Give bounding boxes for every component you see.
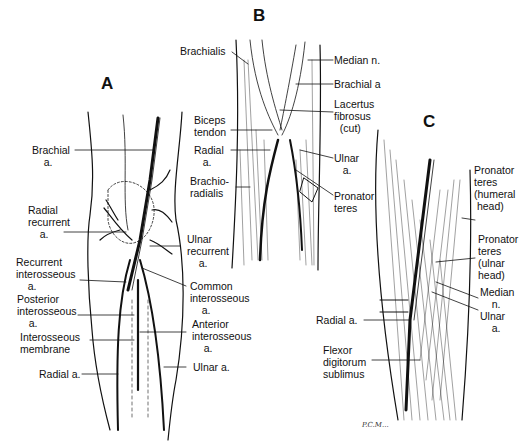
label-radial-a-b: Radial a. bbox=[194, 144, 224, 168]
label-brachialis: Brachialis bbox=[180, 45, 226, 57]
label-radial-a-c: Radial a. bbox=[316, 314, 357, 326]
label-radial-recurrent: Radial recurrent a. bbox=[28, 204, 70, 240]
panel-letter-a: A bbox=[101, 74, 113, 94]
panel-letter-b: B bbox=[253, 6, 265, 26]
label-brachial-a-b: Brachial a bbox=[334, 78, 381, 90]
label-median-n-c: Median n. bbox=[480, 286, 514, 310]
label-median-n-b: Median n. bbox=[334, 54, 380, 66]
label-lacertus-fibrosus: Lacertus fibrosus (cut) bbox=[334, 98, 374, 134]
label-posterior-interosseous: Posterior interosseous a. bbox=[17, 293, 77, 329]
label-biceps-tendon: Biceps tendon bbox=[194, 114, 226, 138]
label-radial-a: Radial a. bbox=[39, 368, 80, 380]
panel-c-drawing bbox=[364, 130, 478, 420]
label-ulnar-a-c: Ulnar a. bbox=[480, 310, 505, 334]
label-pronator-teres-ulnar: Pronator teres (ulnar head) bbox=[478, 233, 518, 281]
label-recurrent-interosseous: Recurrent interosseous a. bbox=[16, 256, 76, 292]
label-common-interosseous: Common interosseous a. bbox=[190, 280, 250, 316]
label-flexor-digitorum-sublimus: Flexor digitorum sublimus bbox=[323, 344, 366, 380]
artist-signature: P.C.M... bbox=[362, 421, 389, 429]
label-ulnar-recurrent: Ulnar recurrent a. bbox=[187, 233, 229, 269]
label-ulnar-a-b: Ulnar a. bbox=[334, 152, 359, 176]
label-ulnar-a: Ulnar a. bbox=[193, 361, 230, 373]
panel-letter-c: C bbox=[423, 112, 435, 132]
panel-a-drawing bbox=[64, 112, 186, 440]
label-pronator-teres-b: Pronator teres bbox=[334, 190, 374, 214]
label-anterior-interosseous: Anterior interosseous a. bbox=[192, 318, 252, 354]
label-pronator-teres-humeral: Pronator teres (humeral head) bbox=[474, 164, 515, 212]
label-interosseous-membrane: Interosseous membrane bbox=[20, 331, 80, 355]
panel-b-drawing bbox=[231, 40, 333, 270]
label-brachial-a: Brachial a. bbox=[32, 144, 70, 168]
label-brachioradialis: Brachio- radialis bbox=[190, 175, 229, 199]
